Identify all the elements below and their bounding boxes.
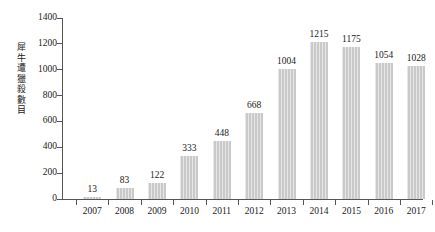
- bar-value-label-2011: 448: [199, 129, 245, 139]
- bar-2017: [407, 66, 425, 199]
- x-tick-mark: [141, 200, 142, 205]
- x-tick-mark: [303, 200, 304, 205]
- x-tick-mark: [206, 200, 207, 205]
- bar-2009: [148, 183, 166, 199]
- y-tick-mark: [57, 69, 62, 70]
- y-tick-label: 1000: [17, 65, 57, 75]
- y-tick-mark: [57, 121, 62, 122]
- bar-value-label-2009: 122: [134, 171, 180, 181]
- x-tick-mark: [76, 200, 77, 205]
- bar-2016: [375, 63, 393, 199]
- y-tick-label: 400: [17, 142, 57, 152]
- x-tick-mark: [238, 200, 239, 205]
- y-tick-mark: [57, 18, 62, 19]
- x-tick-label-2017: 2017: [396, 207, 435, 217]
- bar-2011: [213, 141, 231, 199]
- x-tick-mark: [270, 200, 271, 205]
- y-tick-label: 1200: [17, 39, 57, 49]
- x-tick-mark: [400, 200, 401, 205]
- y-tick-label: 800: [17, 91, 57, 101]
- bar-2008: [116, 188, 134, 199]
- y-axis-line: [62, 18, 63, 200]
- x-tick-mark: [173, 200, 174, 205]
- y-tick-mark: [57, 199, 62, 200]
- y-tick-mark: [57, 173, 62, 174]
- bar-2015: [342, 47, 360, 199]
- bar-2007: [83, 197, 101, 199]
- bar-value-label-2015: 1175: [328, 35, 374, 45]
- bar-value-label-2013: 1004: [264, 57, 310, 67]
- y-tick-label: 0: [17, 194, 57, 204]
- bar-value-label-2010: 333: [166, 144, 212, 154]
- bar-value-label-2007: 13: [69, 185, 115, 195]
- y-tick-label: 200: [17, 168, 57, 178]
- x-tick-mark: [335, 200, 336, 205]
- y-tick-label: 600: [17, 116, 57, 126]
- x-tick-mark: [368, 200, 369, 205]
- bar-value-label-2012: 668: [231, 101, 277, 111]
- x-tick-mark: [108, 200, 109, 205]
- bar-2014: [310, 42, 328, 199]
- y-tick-label: 1400: [17, 13, 57, 23]
- y-tick-mark: [57, 147, 62, 148]
- bar-2010: [180, 156, 198, 199]
- bar-value-label-2017: 1028: [393, 54, 435, 64]
- bar-2012: [245, 113, 263, 199]
- bar-chart: 犀牛遭獵殺數目 0200400600800100012001400 138312…: [0, 0, 435, 232]
- bar-2013: [278, 69, 296, 199]
- x-tick-mark: [432, 200, 433, 205]
- y-axis-title: 犀牛遭獵殺數目: [13, 42, 29, 116]
- y-tick-mark: [57, 43, 62, 44]
- y-tick-mark: [57, 95, 62, 96]
